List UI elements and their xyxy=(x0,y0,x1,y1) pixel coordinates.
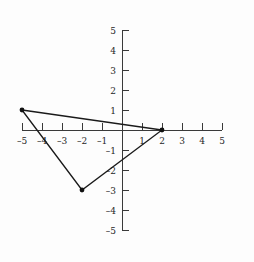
y-tick-label-1: 4 xyxy=(110,46,116,56)
x-tick-label-3: –2 xyxy=(77,136,87,146)
y-tick-label-2: 3 xyxy=(110,66,116,76)
x-tick-label-4: –1 xyxy=(97,136,107,146)
plot-canvas: –5–4–3–2–112345 54321–1–2–3–4–5 xyxy=(0,0,254,262)
y-tick-label-7: –3 xyxy=(106,186,117,196)
x-tick-label-9: 5 xyxy=(219,136,225,146)
x-tick-label-0: –5 xyxy=(17,136,28,146)
x-tick-label-8: 4 xyxy=(199,136,205,146)
vertex-0-0 xyxy=(20,108,25,113)
axes-group xyxy=(22,30,222,230)
x-tick-label-6: 2 xyxy=(159,136,165,146)
shape-triangle xyxy=(22,110,162,190)
y-tick-label-5: –1 xyxy=(106,146,116,156)
y-tick-label-3: 2 xyxy=(110,86,116,96)
y-tick-label-4: 1 xyxy=(110,106,116,116)
y-tick-label-8: –4 xyxy=(106,206,117,216)
x-tick-label-7: 3 xyxy=(179,136,185,146)
vertex-0-1 xyxy=(160,128,165,133)
y-tick-label-9: –5 xyxy=(106,226,117,236)
vertex-0-2 xyxy=(80,188,85,193)
plotted-shapes xyxy=(22,110,162,190)
coordinate-plane-figure: –5–4–3–2–112345 54321–1–2–3–4–5 xyxy=(0,0,254,262)
x-tick-label-2: –3 xyxy=(57,136,68,146)
y-tick-label-0: 5 xyxy=(110,26,116,36)
